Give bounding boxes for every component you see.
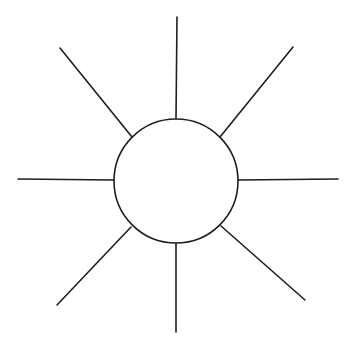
drawing-canvas [0,0,348,350]
ray-n [176,17,177,119]
sun-figure [0,0,348,350]
ray-e [238,179,338,180]
ray-w [18,179,114,180]
sun-circle [114,119,238,243]
